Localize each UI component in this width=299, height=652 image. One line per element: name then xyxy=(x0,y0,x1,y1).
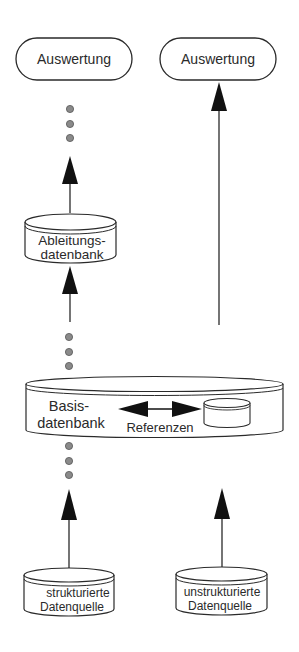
ellipsis-dots-icon xyxy=(66,105,73,141)
base-database-cylinder: Basis- datenbank Referenzen xyxy=(26,377,283,438)
unstructured-source-cylinder: unstrukturierte Datenquelle xyxy=(176,567,267,615)
derived-database-label-line1: Ableitungs- xyxy=(38,233,106,248)
data-flow-diagram: Auswertung Auswertung Ableitungs- datenb… xyxy=(0,0,299,652)
structured-source-cylinder: strukturierte Datenquelle xyxy=(24,568,114,616)
unstructured-source-label-line1: unstrukturierte xyxy=(184,585,261,599)
output-left-label: Auswertung xyxy=(37,51,111,67)
base-database-label-line2: datenbank xyxy=(37,415,105,431)
derived-database-cylinder: Ableitungs- datenbank xyxy=(25,214,116,263)
output-left: Auswertung xyxy=(16,38,132,80)
output-right: Auswertung xyxy=(160,38,276,80)
arrow-up-icon xyxy=(214,488,230,568)
derived-database-label-line2: datenbank xyxy=(40,247,103,262)
structured-source-label-line2: Datenquelle xyxy=(40,600,104,614)
references-label: Referenzen xyxy=(126,420,193,435)
structured-source-label-line1: strukturierte xyxy=(46,586,110,600)
ellipsis-dots-icon xyxy=(65,333,72,369)
arrow-up-icon xyxy=(62,156,78,213)
reference-database-icon xyxy=(204,399,250,428)
output-right-label: Auswertung xyxy=(181,51,255,67)
arrow-up-icon xyxy=(61,489,77,568)
arrow-up-icon xyxy=(211,82,227,325)
arrow-up-icon xyxy=(62,266,78,322)
base-database-label-line1: Basis- xyxy=(49,398,89,414)
ellipsis-dots-icon xyxy=(65,442,72,478)
unstructured-source-label-line2: Datenquelle xyxy=(188,599,252,613)
